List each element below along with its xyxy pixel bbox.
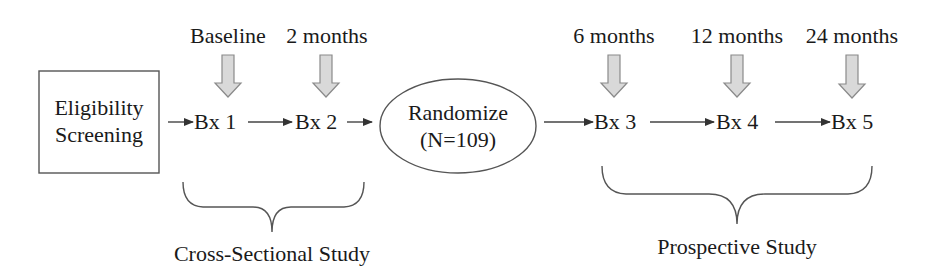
eligibility-label-line1: Eligibility	[54, 95, 143, 120]
biopsy-node-5: Bx 5	[831, 109, 873, 134]
timepoint-label-2-months: 2 months	[286, 23, 367, 48]
prospective-brace	[602, 166, 872, 224]
block-arrows	[215, 55, 865, 98]
timepoint-labels: Baseline 2 months 6 months 12 months 24 …	[190, 23, 898, 48]
biopsy-node-2: Bx 2	[295, 109, 337, 134]
timepoint-label-12-months: 12 months	[691, 23, 783, 48]
down-arrow-icon	[724, 55, 750, 97]
randomize-label-line1: Randomize	[408, 100, 508, 125]
down-arrow-icon	[601, 55, 627, 97]
eligibility-label-line2: Screening	[55, 122, 143, 147]
timepoint-label-baseline: Baseline	[190, 23, 266, 48]
group-labels: Cross-Sectional Study Prospective Study	[174, 234, 817, 266]
biopsy-node-4: Bx 4	[716, 109, 758, 134]
biopsy-node-3: Bx 3	[594, 109, 636, 134]
eligibility-screening-node: Eligibility Screening	[39, 71, 159, 173]
diagram-canvas: Baseline 2 months 6 months 12 months 24 …	[0, 0, 938, 276]
cross-sectional-study-label: Cross-Sectional Study	[174, 241, 370, 266]
randomize-node: Randomize (N=109)	[380, 79, 536, 173]
biopsy-node-1: Bx 1	[194, 109, 236, 134]
braces	[183, 166, 872, 232]
down-arrow-icon	[839, 55, 865, 98]
randomize-label-line2: (N=109)	[420, 127, 496, 152]
timepoint-label-6-months: 6 months	[573, 23, 654, 48]
prospective-study-label: Prospective Study	[657, 234, 817, 259]
cross-sectional-brace	[183, 182, 364, 232]
timepoint-label-24-months: 24 months	[806, 23, 898, 48]
down-arrow-icon	[215, 55, 241, 97]
down-arrow-icon	[313, 55, 339, 97]
